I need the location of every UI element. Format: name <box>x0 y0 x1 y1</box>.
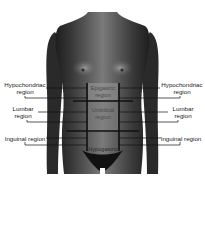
label-umbilical: Umbilical region <box>88 107 118 120</box>
label-left-lumbar: Lumbar region <box>6 105 40 119</box>
label-right-inguinal: Inguinal region <box>158 135 204 142</box>
label-epigastric: Epigastric region <box>88 85 118 98</box>
label-left-hypochondriac: Hypochondriac region <box>1 81 49 95</box>
label-left-inguinal: Inguinal region <box>2 135 48 142</box>
label-right-lumbar: Lumbar region <box>166 105 200 119</box>
label-hypogastric: Hypogastric <box>86 146 120 153</box>
label-right-hypochondriac: Hypochondriac region <box>158 81 205 95</box>
